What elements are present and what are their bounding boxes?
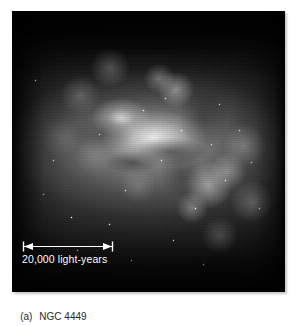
scale-bar-arrow-icon <box>22 240 118 253</box>
scale-bar: 20,000 light-years <box>22 240 118 274</box>
caption-object-name: NGC 4449 <box>39 311 86 322</box>
caption-panel-label: (a) <box>20 311 32 322</box>
scale-bar-label: 20,000 light-years <box>22 253 132 266</box>
galaxy-photograph: 20,000 light-years <box>12 11 285 292</box>
figure-caption: (a)NGC 4449 <box>9 297 87 326</box>
